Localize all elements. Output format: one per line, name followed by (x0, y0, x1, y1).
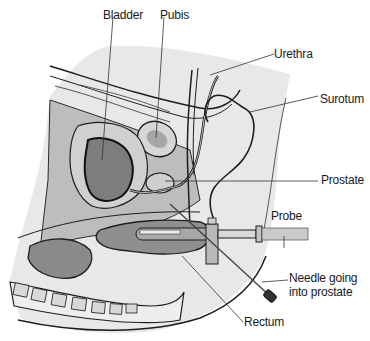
label-scrotum: Surotum (320, 93, 364, 106)
prostate-biopsy-diagram: Bladder Pubis Urethra Surotum Prostate P… (0, 0, 370, 341)
label-rectum: Rectum (244, 316, 284, 329)
label-needle-line2: into prostate (289, 286, 352, 299)
label-bladder: Bladder (103, 9, 143, 22)
label-pubis: Pubis (160, 9, 189, 22)
label-urethra: Urethra (274, 48, 313, 61)
label-needle-line1: Needle going (289, 272, 357, 285)
label-probe: Probe (271, 210, 302, 223)
label-prostate: Prostate (321, 174, 364, 187)
